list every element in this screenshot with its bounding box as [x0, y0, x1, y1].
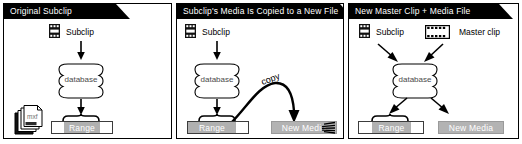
panel-1-title-banner: Original Subclip — [4, 4, 116, 19]
arrow-subclip-to-database — [211, 41, 223, 61]
range-bar-left-segment — [52, 122, 64, 133]
panel-3-title: New Master Clip + Media File — [355, 5, 470, 18]
subclip-label: Subclip — [376, 27, 404, 37]
panel-1-title: Original Subclip — [10, 5, 72, 18]
range-bar[interactable]: Range — [187, 121, 249, 134]
arrow-masterclip-to-database — [421, 43, 447, 65]
panel-new-master-clip: New Master Clip + Media File Subclip — [348, 3, 519, 139]
mxf-file-stack-icon: mxf — [14, 103, 48, 135]
master-clip-label: Master clip — [459, 27, 500, 37]
media-lines-icon — [321, 121, 337, 134]
panel-original-subclip: Original Subclip Subclip — [3, 3, 172, 139]
range-bar[interactable]: Range — [358, 121, 424, 134]
subclip-icon — [185, 24, 196, 38]
panel-3-title-banner: New Master Clip + Media File — [349, 4, 499, 19]
database-label: database — [389, 75, 441, 85]
range-bar-right-segment — [236, 122, 248, 133]
database-cylinder-icon: database — [55, 63, 107, 99]
master-clip-filmstrip-icon — [425, 25, 450, 39]
subclip-icon — [49, 24, 60, 38]
subclip-label: Subclip — [202, 27, 230, 37]
range-bar-right-segment — [100, 122, 112, 133]
new-media-box[interactable]: New Media — [438, 121, 504, 134]
subclip-icon — [359, 24, 370, 38]
database-cylinder-icon: database — [389, 63, 441, 99]
arrow-subclip-to-database — [377, 43, 403, 65]
panel-media-copied: Subclip's Media Is Copied to a New File … — [176, 3, 344, 139]
range-bar-right-segment — [411, 122, 423, 133]
range-bar-label: Range — [188, 122, 236, 133]
range-bar-label: Range — [372, 122, 411, 133]
database-label: database — [55, 75, 107, 85]
mxf-label: mxf — [27, 113, 38, 120]
range-bar-label: Range — [64, 122, 100, 133]
diagram-figure: Original Subclip Subclip — [0, 0, 522, 144]
arrow-subclip-to-database — [75, 41, 87, 61]
new-media-label: New Media — [282, 123, 326, 133]
range-bar-left-segment — [359, 122, 372, 133]
panel-2-title-banner: Subclip's Media Is Copied to a New File — [177, 4, 340, 19]
new-media-label: New Media — [449, 123, 493, 133]
banner-slant-shape — [116, 4, 130, 19]
arrow-database-to-new-media — [428, 97, 452, 117]
panel-2-title: Subclip's Media Is Copied to a New File — [183, 5, 338, 18]
range-bar[interactable]: Range — [51, 121, 113, 134]
banner-slant-shape — [499, 4, 513, 19]
banner-slant-shape — [340, 4, 344, 19]
subclip-label: Subclip — [66, 27, 94, 37]
